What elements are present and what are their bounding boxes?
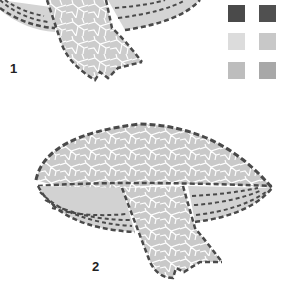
- figure-label-2: 2: [92, 259, 99, 274]
- swatch-very-light-grey: [228, 33, 245, 50]
- swatch-light-grey: [259, 33, 276, 50]
- mushroom-1: [0, 0, 200, 80]
- swatch-dark-grey-1: [228, 5, 245, 22]
- swatch-mid-grey: [259, 62, 276, 79]
- swatch-dark-grey-2: [259, 5, 276, 22]
- mosaic-diagram: [0, 0, 292, 304]
- figure-label-1: 1: [10, 61, 17, 76]
- mushroom-2: [36, 124, 272, 278]
- cap-gills-right: [108, 0, 200, 30]
- swatch-mid-light-grey: [228, 62, 245, 79]
